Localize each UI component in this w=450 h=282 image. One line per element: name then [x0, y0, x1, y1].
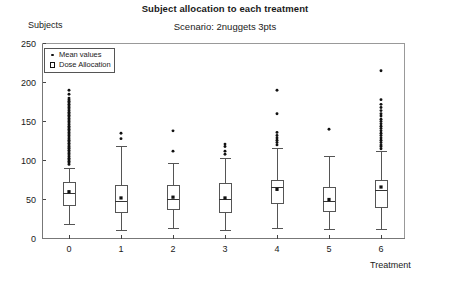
outlier-point [172, 129, 175, 132]
box-group-6 [375, 69, 387, 229]
mean-marker [275, 188, 278, 191]
legend-label-mean: Mean values [59, 50, 102, 60]
box-group-1 [115, 132, 127, 231]
chart-legend: Mean values Dose Allocation [44, 48, 115, 73]
outlier-point [224, 153, 227, 156]
outlier-point [276, 131, 279, 134]
legend-item-mean: Mean values [48, 50, 111, 60]
box-iqr [271, 180, 283, 203]
mean-marker [67, 190, 70, 193]
boxplot-chart: Subject allocation to each treatment Sce… [0, 0, 450, 282]
box-group-3 [219, 143, 231, 231]
outlier-point [276, 112, 279, 115]
outlier-point [380, 112, 383, 115]
x-tick-label: 6 [366, 244, 396, 254]
mean-marker [171, 196, 174, 199]
outlier-point [380, 98, 383, 101]
outlier-point [224, 150, 227, 153]
outlier-point [120, 137, 123, 140]
box-group-4 [271, 89, 283, 229]
y-tick-label: 0 [0, 234, 36, 244]
y-tick-label: 150 [0, 117, 36, 127]
x-tick-label: 2 [158, 244, 188, 254]
y-tick-label: 50 [0, 195, 36, 205]
x-tick-label: 1 [106, 244, 136, 254]
x-tick-label: 3 [210, 244, 240, 254]
box-group-0 [63, 89, 75, 225]
outlier-point [276, 134, 279, 137]
mean-marker [119, 196, 122, 199]
y-tick-label: 100 [0, 156, 36, 166]
outlier-point [328, 128, 331, 131]
box-group-2 [167, 129, 179, 228]
box-group-5 [323, 128, 335, 229]
mean-marker [327, 198, 330, 201]
mean-dot-icon [48, 50, 57, 60]
outlier-point [276, 89, 279, 92]
x-tick-label: 5 [314, 244, 344, 254]
plot-area [0, 0, 450, 282]
outlier-point [68, 93, 71, 96]
legend-item-dose: Dose Allocation [48, 60, 111, 70]
outlier-point [380, 109, 383, 112]
x-tick-label: 0 [54, 244, 84, 254]
x-tick-label: 4 [262, 244, 292, 254]
outlier-point [120, 132, 123, 135]
outlier-point [224, 143, 227, 146]
outlier-point [380, 69, 383, 72]
dose-square-icon [48, 60, 57, 70]
mean-marker [223, 196, 226, 199]
y-tick-label: 250 [0, 39, 36, 49]
outlier-point [380, 103, 383, 106]
box-iqr [63, 182, 75, 205]
outlier-point [380, 106, 383, 109]
box-iqr [375, 180, 387, 207]
mean-marker [379, 185, 382, 188]
outlier-point [68, 89, 71, 92]
outlier-point [172, 150, 175, 153]
outlier-point [380, 118, 383, 121]
legend-label-dose: Dose Allocation [59, 60, 111, 70]
outlier-point [68, 97, 71, 100]
y-tick-label: 200 [0, 78, 36, 88]
